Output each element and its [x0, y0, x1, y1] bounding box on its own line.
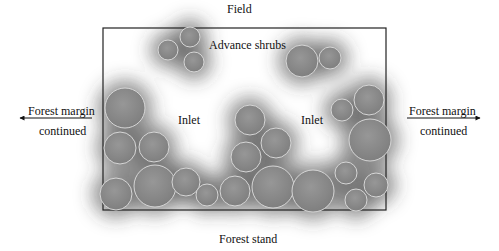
forest-margin-right-line2: continued	[420, 124, 467, 138]
advance-shrubs-label: Advance shrubs	[209, 38, 286, 52]
shrub-circle	[331, 99, 353, 121]
forest-stand-label: Forest stand	[219, 232, 277, 246]
shrub-circle	[286, 45, 318, 77]
shrub-circle	[104, 132, 136, 164]
shrub-circle	[235, 105, 265, 135]
shrub-circle	[335, 162, 357, 184]
shrub-circle	[354, 85, 384, 115]
shrub-circle	[349, 119, 391, 161]
shrub-circle	[158, 40, 178, 60]
shrub-circle	[345, 189, 367, 211]
shrub-circle	[319, 47, 341, 69]
shrub-circle	[134, 165, 176, 207]
shrub-circle	[184, 52, 204, 72]
shrub-circle	[180, 27, 200, 47]
shrub-circle	[220, 176, 250, 206]
shrub-circle	[172, 168, 200, 196]
shrub-circle	[139, 132, 169, 162]
shrub-circle	[105, 88, 145, 128]
shrub-circle	[292, 170, 334, 212]
forest-margin-left-line2: continued	[39, 124, 86, 138]
forest-margin-left-line1: Forest margin	[28, 104, 95, 118]
field-label: Field	[227, 2, 252, 16]
shrub-circle	[100, 178, 132, 210]
shrub-circle	[231, 142, 261, 172]
shrub-circle	[261, 128, 291, 158]
shrub-circle	[196, 184, 218, 206]
shrub-circle	[364, 173, 388, 197]
inlet-left-label: Inlet	[178, 113, 200, 127]
shrub-circle	[252, 166, 294, 208]
forest-margin-right-line1: Forest margin	[409, 104, 476, 118]
inlet-right-label: Inlet	[301, 113, 323, 127]
